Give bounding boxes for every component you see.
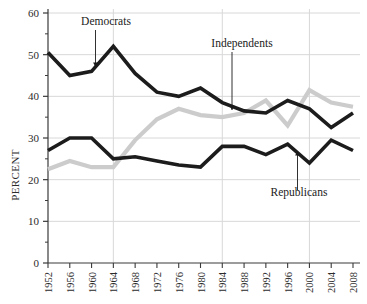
- y-tick-label-40: 40: [28, 90, 40, 102]
- annotation-label-independents: Independents: [211, 37, 273, 50]
- y-tick-label-10: 10: [28, 215, 40, 227]
- x-tick-label-1976: 1976: [174, 272, 185, 293]
- x-tick-label-1960: 1960: [87, 272, 98, 293]
- chart-container: 0102030405060 19521956196019641968197219…: [0, 0, 367, 304]
- x-tick-label-1988: 1988: [239, 272, 250, 293]
- x-tick-label-1996: 1996: [283, 272, 294, 293]
- x-axis-tick-labels: 1952195619601964196819721976198019841988…: [43, 271, 359, 293]
- annotation-label-republicans: Republicans: [271, 186, 328, 199]
- y-tick-label-60: 60: [28, 7, 40, 19]
- y-tick-label-20: 20: [28, 174, 40, 186]
- y-tick-label-0: 0: [34, 257, 40, 269]
- x-tick-label-1984: 1984: [217, 271, 228, 293]
- annotation-label-democrats: Democrats: [81, 15, 131, 27]
- x-tick-label-1968: 1968: [130, 272, 141, 293]
- x-tick-label-1972: 1972: [152, 272, 163, 293]
- x-tick-label-1952: 1952: [43, 272, 54, 293]
- x-tick-label-1980: 1980: [196, 272, 207, 293]
- x-tick-label-1992: 1992: [261, 272, 272, 293]
- x-tick-label-1964: 1964: [108, 271, 119, 293]
- y-tick-label-30: 30: [28, 132, 40, 144]
- x-tick-label-2004: 2004: [326, 271, 337, 293]
- y-tick-label-50: 50: [28, 49, 40, 61]
- percent-by-party-line-chart: 0102030405060 19521956196019641968197219…: [0, 0, 367, 304]
- chart-background: [0, 0, 367, 304]
- x-tick-label-2008: 2008: [348, 272, 359, 293]
- x-tick-label-2000: 2000: [304, 272, 315, 293]
- y-axis-label: PERCENT: [9, 149, 21, 201]
- x-tick-label-1956: 1956: [65, 272, 76, 293]
